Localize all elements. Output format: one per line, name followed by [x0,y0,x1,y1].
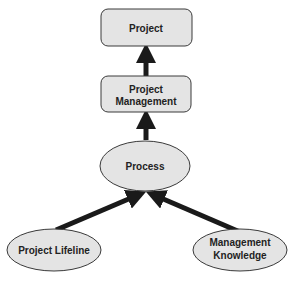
node-management-knowledge-label-1: Management [209,237,271,248]
node-project-label: Project [129,23,164,34]
node-project: Project [101,9,192,46]
edge-knowledge-to-process [154,195,240,232]
node-project-lifeline-label: Project Lifeline [18,245,90,256]
node-process-label: Process [126,161,165,172]
node-project-lifeline: Project Lifeline [7,229,101,271]
diagram-canvas: Project Project Management Process Proje… [0,0,307,283]
node-management-knowledge-label-2: Knowledge [213,250,267,261]
node-project-management: Project Management [101,76,191,112]
edge-lifeline-to-process [56,195,138,230]
node-process: Process [100,141,190,191]
node-management-knowledge: Management Knowledge [193,229,287,271]
node-project-management-label-1: Project [129,84,164,95]
node-project-management-label-2: Management [115,96,177,107]
